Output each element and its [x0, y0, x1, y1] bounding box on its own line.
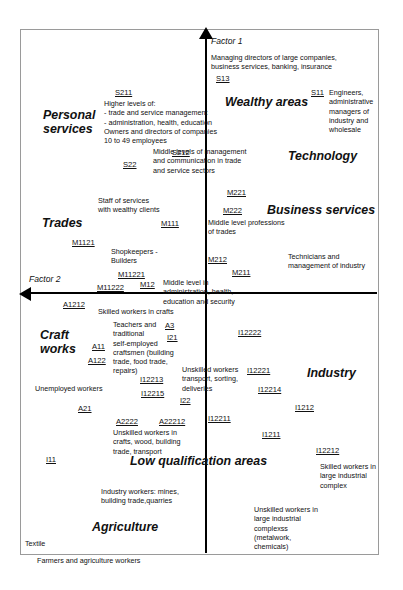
description-higher-levels: Higher levels of: - trade and service ma…	[104, 99, 254, 145]
category-code-M211: M211	[232, 268, 250, 277]
description-staff-wealthy-clients: Staff of services with wealthy clients	[98, 196, 198, 215]
description-middle-level-trades: Middle level professions of trades	[208, 218, 328, 237]
description-middle-level-admin: Middle level in administration, health, …	[163, 278, 273, 306]
factor-2-label: Factor 2	[29, 274, 61, 284]
zone-label-low-qualification: Low qualification areas	[130, 454, 267, 468]
category-code-I1211: I1211	[262, 430, 280, 439]
factor-2-axis-arrowhead	[19, 287, 31, 301]
zone-label-technology: Technology	[288, 149, 357, 163]
description-unskilled-large-cplx: Unskilled workers in large industrial co…	[254, 505, 349, 551]
description-unskilled-crafts-wood: Unskilled workers in crafts, wood, build…	[113, 428, 213, 456]
category-code-I12215: I12215	[141, 389, 164, 398]
zone-label-trades: Trades	[42, 216, 82, 230]
category-code-S211: S211	[115, 88, 132, 97]
category-code-I12221: I12221	[247, 366, 270, 375]
description-skilled-large-industry: Skilled workers in large industrial comp…	[320, 462, 400, 490]
zone-label-craft-works: Craft works	[40, 328, 76, 356]
category-code-A3: A3	[165, 321, 174, 330]
category-code-A22212: A22212	[159, 417, 185, 426]
description-engineers: Engineers, administrative managers of in…	[329, 88, 397, 134]
category-code-I12211: I12211	[208, 414, 231, 423]
category-code-I21: I21	[167, 333, 178, 342]
zone-label-industry: Industry	[307, 366, 356, 380]
category-code-M11222: M11222	[97, 283, 124, 292]
description-industry-workers-mines: Industry workers: mines, building trade,…	[101, 487, 211, 506]
category-code-S22: S22	[123, 160, 137, 169]
category-code-S212: S212	[172, 148, 190, 157]
category-code-I1212: I1212	[295, 403, 314, 412]
zone-label-business-services: Business services	[267, 203, 375, 217]
category-code-I12222: I12222	[238, 328, 261, 337]
category-code-M1121: M1121	[72, 238, 95, 247]
category-code-M111: M111	[161, 219, 179, 228]
description-textile: Textile	[25, 539, 75, 548]
category-code-S11: S11	[311, 88, 324, 97]
category-code-I12214: I12214	[258, 385, 281, 394]
diagram-canvas: Factor 1 Factor 2 Wealthy areasPersonal …	[0, 0, 403, 590]
category-code-S13: S13	[216, 74, 230, 83]
description-skilled-workers-crafts: Skilled workers in crafts	[98, 307, 208, 316]
description-teachers-craftsmen: Teachers and traditional self-employed c…	[113, 320, 193, 376]
category-code-A122: A122	[88, 356, 106, 365]
factor-1-label: Factor 1	[211, 36, 243, 46]
zone-label-agriculture: Agriculture	[92, 520, 158, 534]
category-code-A21: A21	[78, 404, 92, 413]
description-farmers: Farmers and agriculture workers	[37, 556, 187, 565]
description-technicians-industry: Technicians and management of industry	[288, 252, 398, 271]
description-unemployed-workers: Unemployed workers	[35, 384, 135, 393]
category-code-I12213: I12213	[140, 375, 163, 384]
category-code-A11: A11	[92, 342, 105, 351]
description-shopkeepers-builders: Shopkeepers - Builders	[111, 247, 191, 266]
category-code-I22: I22	[180, 396, 191, 405]
category-code-A1212: A1212	[63, 300, 85, 309]
category-code-M12: M12	[140, 280, 155, 289]
category-code-M212: M212	[208, 255, 227, 264]
category-code-A2222: A2222	[116, 417, 138, 426]
category-code-M222: M222	[223, 206, 242, 215]
category-code-M11221: M11221	[118, 270, 145, 279]
category-code-I12212: I12212	[316, 446, 339, 455]
description-managing-directors: Managing directors of large companies, b…	[211, 53, 401, 72]
category-code-M221: M221	[227, 188, 246, 197]
zone-label-personal-services: Personal services	[43, 108, 95, 136]
category-code-I11: I11	[46, 455, 56, 464]
